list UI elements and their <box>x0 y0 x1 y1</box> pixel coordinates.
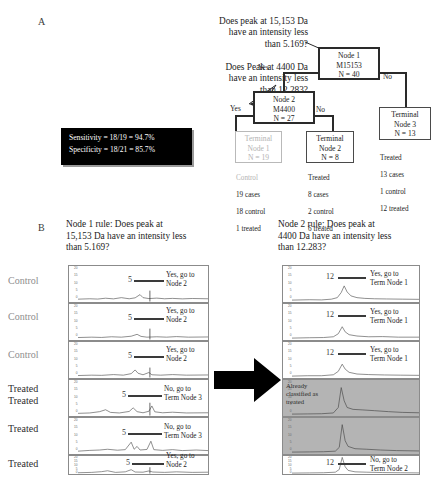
node1-line1: Node 1 <box>320 51 378 61</box>
threshold-label-right-6: 12 <box>326 458 334 467</box>
terminal2-line3: N = 8 <box>307 153 353 163</box>
threshold-label-right-2: 12 <box>326 310 334 319</box>
edge-label-node1-yes: Yes <box>258 63 269 72</box>
threshold-label-left-6: 5 <box>126 458 130 467</box>
already-classified-note: Already classified as treated <box>286 382 336 407</box>
threshold-label-right-3: 12 <box>326 348 334 357</box>
edge-node1-no-v <box>405 72 407 108</box>
annotation-left-6: Yes, go to Node 2 <box>166 452 214 469</box>
threshold-bar-right-3 <box>338 353 366 355</box>
threshold-bar-left-6 <box>132 463 164 465</box>
axis-ticks-right-2: 20 15 10 5 0 <box>283 304 292 340</box>
threshold-label-left-2: 5 <box>128 313 132 322</box>
panel-b-right-rule: Node 2 rule: Does peak at 4400 Da have a… <box>278 219 428 254</box>
axis-ticks-left-4: 20 15 10 5 0 <box>69 380 78 416</box>
threshold-bar-right-2 <box>338 315 366 317</box>
leaf2-cases: 8 cases <box>308 191 368 199</box>
leaf3-cases: 13 cases <box>380 171 435 179</box>
annotation-left-5: No, go to Term Node 3 <box>164 423 218 440</box>
axis-ticks-right-3: 20 15 10 5 0 <box>283 342 292 378</box>
threshold-bar-left-5 <box>128 433 162 435</box>
leaf-desc-terminal3: Treated 13 cases 1 control 12 treated <box>380 146 435 222</box>
leaf1-class: Control <box>236 174 296 182</box>
edge-label-node1-no: No <box>383 72 392 81</box>
terminal3-line3: N = 13 <box>380 129 430 139</box>
threshold-bar-left-2 <box>134 318 164 320</box>
threshold-bar-left-1 <box>134 280 164 282</box>
edge-label-node2-yes: Yes <box>230 104 241 113</box>
panel-b-letter: B <box>38 222 45 233</box>
axis-ticks-left-5: 20 15 10 5 0 <box>69 418 78 454</box>
edge-node1-yes-v <box>283 72 285 92</box>
panel-b-left-rule: Node 1 rule: Does peak at 15,153 Da have… <box>66 219 216 254</box>
edge-node2-yes-v <box>235 115 237 132</box>
right-arrow-icon <box>214 357 282 403</box>
node2-line2: M4400 <box>255 105 313 115</box>
annotation-right-1: Yes, go to Term Node 1 <box>370 270 426 287</box>
leaf1-cases: 19 cases <box>236 191 296 199</box>
axis-ticks-left-2: 20 15 10 5 0 <box>69 304 78 340</box>
edge-node2-no-h <box>314 115 334 117</box>
row-label-left-2: Control <box>8 311 39 322</box>
terminal1-line3: N = 19 <box>236 153 281 163</box>
leaf3-control: 1 control <box>380 188 435 196</box>
edge-label-node2-no: No <box>316 105 325 114</box>
specificity-text: Specificity = 18/21 = 85.7% <box>69 144 184 156</box>
axis-ticks-right-5: 20 15 10 5 0 <box>283 418 292 454</box>
axis-ticks-left-1: 20 15 10 5 0 <box>69 266 78 302</box>
threshold-label-right-1: 12 <box>326 272 334 281</box>
leaf2-class: Treated <box>308 174 368 182</box>
trace-right-5 <box>292 418 419 454</box>
terminal2-line2: Node 2 <box>307 144 353 154</box>
annotation-right-6: No, go to Term Node 2 <box>370 456 426 473</box>
threshold-bar-right-1 <box>338 277 366 279</box>
annotation-left-4: No, go to Term Node 3 <box>164 385 218 402</box>
terminal1-line1: Terminal <box>236 134 281 144</box>
tree-node-terminal1[interactable]: Terminal Node 1 N = 19 <box>235 131 282 163</box>
node2-line3: N = 27 <box>255 114 313 124</box>
axis-ticks-left-6: 20 15 10 5 0 <box>69 456 78 474</box>
leaf3-treated: 12 treated <box>380 205 435 213</box>
leaf3-class: Treated <box>380 154 435 162</box>
row-label-left-3: Control <box>8 349 39 360</box>
node1-line2: M15153 <box>320 61 378 71</box>
row-label-left-1: Control <box>8 275 39 286</box>
sensitivity-text: Sensitivity = 18/19 = 94.7% <box>69 132 184 144</box>
annotation-left-2: Yes, go to Node 2 <box>166 307 214 324</box>
stats-box: Sensitivity = 18/19 = 94.7% Specificity … <box>61 128 192 165</box>
terminal2-line1: Terminal <box>307 134 353 144</box>
threshold-bar-left-4 <box>128 395 162 397</box>
edge-node1-yes-h <box>283 72 319 74</box>
tree-node-terminal3[interactable]: Terminal Node 3 N = 13 <box>379 107 431 140</box>
axis-ticks-right-1: 20 15 10 5 0 <box>283 266 292 302</box>
edge-node2-no-v <box>332 115 334 132</box>
tree-node-node2[interactable]: Node 2 M4400 N = 27 <box>253 91 315 124</box>
terminal3-line1: Terminal <box>380 110 430 120</box>
leaf2-control: 2 control <box>308 208 368 216</box>
annotation-left-3: Yes, go to Node 2 <box>166 346 214 363</box>
threshold-label-left-4: 5 <box>122 390 126 399</box>
threshold-label-left-1: 5 <box>128 275 132 284</box>
node1-line3: N = 40 <box>320 70 378 80</box>
edge-node2-yes-h <box>235 115 254 117</box>
annotation-right-3: Yes, go to Term Node 1 <box>370 346 426 363</box>
annotation-right-2: Yes, go to Term Node 1 <box>370 308 426 325</box>
axis-ticks-left-3: 20 15 10 5 0 <box>69 342 78 378</box>
threshold-label-left-3: 5 <box>128 351 132 360</box>
row-label-left-6: Treated <box>8 458 38 469</box>
threshold-label-left-5: 5 <box>122 428 126 437</box>
terminal3-line2: Node 3 <box>380 120 430 130</box>
terminal1-line2: Node 1 <box>236 144 281 154</box>
row-label-left-4a: Treated <box>8 383 38 394</box>
row-label-left-5: Treated <box>8 423 38 434</box>
tree-node-terminal2[interactable]: Terminal Node 2 N = 8 <box>306 131 354 163</box>
tree-node-node1[interactable]: Node 1 M15153 N = 40 <box>318 47 380 80</box>
annotation-left-1: Yes, go to Node 2 <box>166 271 214 288</box>
threshold-bar-left-3 <box>134 356 164 358</box>
threshold-bar-right-6 <box>338 463 366 465</box>
row-label-left-4b: Treated <box>8 395 38 406</box>
node2-line1: Node 2 <box>255 95 313 105</box>
leaf1-control: 18 control <box>236 208 296 216</box>
axis-ticks-right-6: 20 15 10 5 0 <box>283 456 292 474</box>
